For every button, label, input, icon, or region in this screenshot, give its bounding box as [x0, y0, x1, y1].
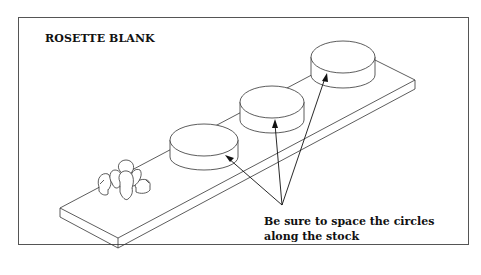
circle-blank-3 — [311, 41, 375, 88]
note-line-2: along the stock — [264, 229, 434, 244]
note-line-1: Be sure to space the circles — [264, 214, 434, 229]
circle-blank-1 — [170, 124, 238, 170]
circle-blank-2 — [240, 86, 304, 133]
instruction-note: Be sure to space the circles along the s… — [264, 214, 434, 244]
